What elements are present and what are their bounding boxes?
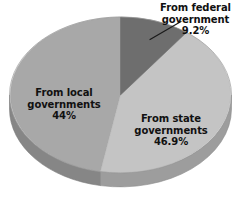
pie-chart: From federal government 9.2% From local …: [0, 0, 243, 212]
pie-top-face: [10, 17, 230, 173]
pie-chart-graphic: [0, 0, 243, 212]
